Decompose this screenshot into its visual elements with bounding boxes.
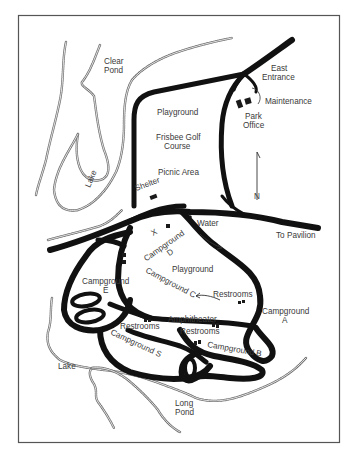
campground-d-building	[166, 224, 170, 228]
park-office-building	[236, 99, 243, 108]
water-icon	[188, 215, 192, 219]
label-frisbee-golf: Frisbee GolfCourse	[156, 133, 201, 151]
maintenance-building	[244, 97, 251, 104]
label-water: Water	[197, 219, 219, 228]
label-long-pond: LongPond	[175, 399, 195, 417]
label-picnic-area: Picnic Area	[158, 168, 199, 177]
park-map: ClearPond EastEntrance Maintenance ParkO…	[0, 0, 354, 451]
label-x-mark: X	[150, 227, 160, 238]
restrooms-east-icon	[238, 301, 241, 304]
label-playground-south: Playground	[172, 265, 214, 274]
label-amphitheater: Amphitheater	[168, 315, 217, 324]
label-restrooms-east: Restrooms	[213, 290, 253, 299]
restrooms-east-icon-2	[242, 300, 245, 303]
label-playground-north: Playground	[157, 108, 199, 117]
label-east-entrance: EastEntrance	[262, 64, 295, 82]
restrooms-center-icon-2	[198, 340, 201, 344]
campground-e-building-1	[122, 253, 126, 257]
shelter-icon	[149, 194, 157, 200]
label-to-pavilion: To Pavilion	[276, 231, 316, 240]
label-maintenance: Maintenance	[265, 97, 312, 106]
label-park-office: ParkOffice	[243, 112, 265, 130]
label-clear-pond: ClearPond	[104, 57, 124, 75]
label-shelter: Shelter	[134, 175, 162, 192]
label-restrooms-center: Restrooms	[180, 327, 220, 336]
campground-e-building-2	[122, 260, 126, 264]
label-campground-a: CampgroundA	[262, 307, 310, 325]
label-lake-south: Lake	[58, 362, 76, 371]
label-north: N	[254, 192, 260, 201]
label-lake-north: Lake	[84, 169, 99, 189]
restrooms-center-icon	[194, 341, 197, 345]
label-restrooms-west: Restrooms	[120, 322, 160, 331]
